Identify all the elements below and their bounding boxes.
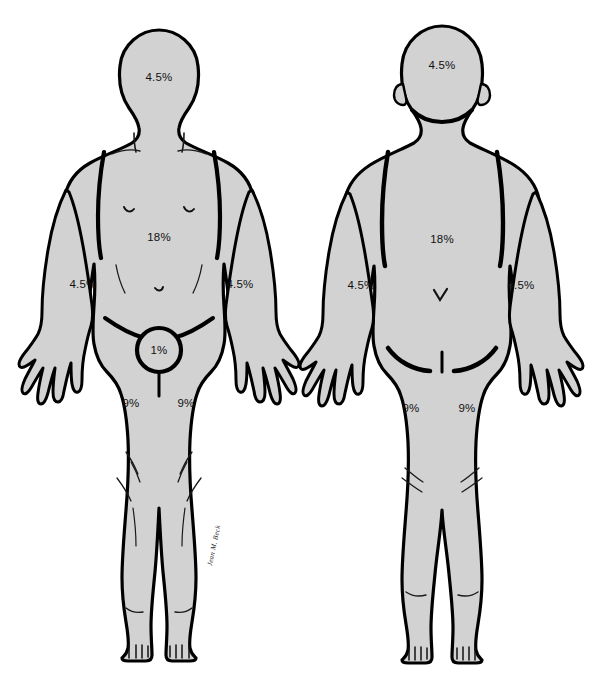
label-front-right-leg: 9% [122,397,139,409]
label-front-right-arm: 4.5% [69,278,96,290]
label-back-left-arm: 4.5% [347,279,374,291]
body-diagram-svg: 4.5% 18% 4.5% 4.5% 1% 9% 9% 4.5% 18% 4.5… [0,0,606,690]
back-view-figure [300,26,583,663]
label-front-left-arm: 4.5% [226,278,253,290]
artist-signature: Jean M. Beck [206,524,223,567]
label-genital-area: 1% [150,344,167,356]
back-ear-left [394,84,406,105]
label-back-torso: 18% [430,233,454,245]
rule-of-nines-chart: 4.5% 18% 4.5% 4.5% 1% 9% 9% 4.5% 18% 4.5… [0,0,606,690]
label-back-head: 4.5% [428,59,455,71]
label-front-left-leg: 9% [177,397,194,409]
label-back-right-arm: 4.5% [507,279,534,291]
label-front-head: 4.5% [145,71,172,83]
back-ear-right [478,84,490,105]
label-back-right-leg: 9% [458,402,475,414]
label-front-torso: 18% [147,231,171,243]
label-back-left-leg: 9% [402,402,419,414]
